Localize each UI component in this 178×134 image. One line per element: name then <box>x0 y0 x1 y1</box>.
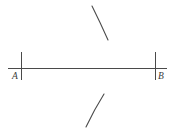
figure-background <box>0 0 178 134</box>
point-label-a: A <box>11 71 18 81</box>
point-label-b: B <box>158 71 164 81</box>
construction-figure: A B <box>0 0 178 134</box>
figure-svg: A B <box>0 0 178 134</box>
